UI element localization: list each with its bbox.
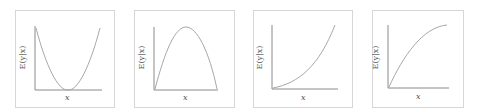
x-axis-label: x <box>65 93 70 102</box>
curve <box>155 27 217 89</box>
x-axis-label: x <box>416 92 421 101</box>
panel-increasing-convex: E(y|x) x <box>253 10 353 108</box>
x-axis-label: x <box>301 93 306 102</box>
y-axis-label: E(y|x) <box>18 46 27 70</box>
x-axis-label: x <box>183 93 188 102</box>
curve <box>389 25 447 87</box>
panel-inverted-u: E(y|x) x <box>134 10 235 108</box>
curve <box>36 28 100 90</box>
panel-u-shape: E(y|x) x <box>15 10 115 108</box>
panel-increasing-concave: E(y|x) x <box>372 10 464 108</box>
curve <box>273 25 335 88</box>
y-axis-label: E(y|x) <box>137 46 146 70</box>
y-axis-label: E(y|x) <box>255 46 264 70</box>
y-axis-label: E(y|x) <box>371 46 380 70</box>
